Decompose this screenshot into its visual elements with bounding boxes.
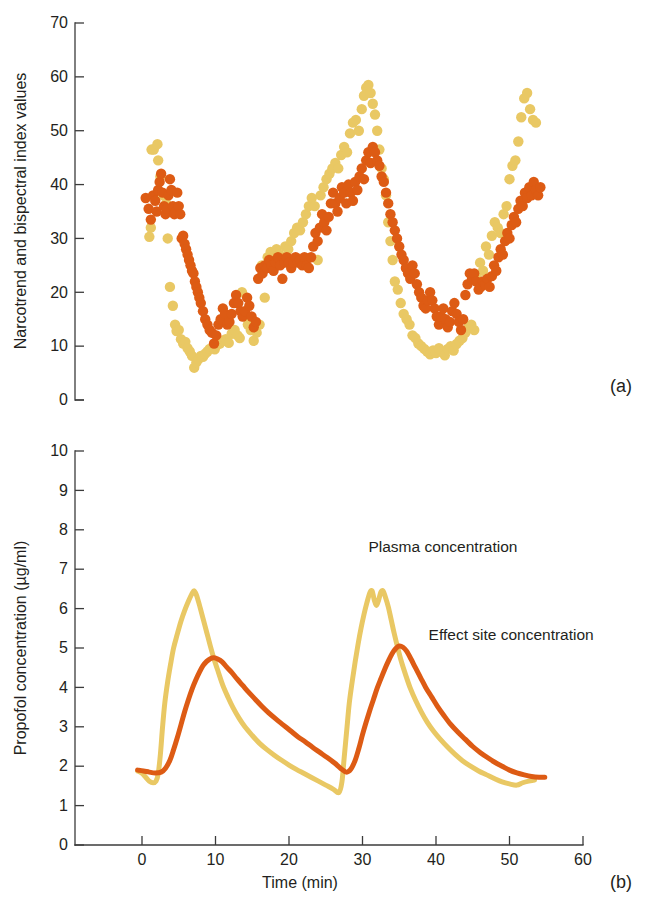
- series-annotation-label: Plasma concentration: [368, 538, 517, 555]
- data-point: [504, 233, 514, 243]
- data-point: [381, 187, 391, 197]
- data-point: [510, 155, 520, 165]
- data-point: [396, 298, 406, 308]
- data-point: [504, 174, 514, 184]
- data-point: [211, 330, 221, 340]
- data-point: [531, 117, 541, 127]
- data-point: [535, 182, 545, 192]
- y-tick-label: 1: [59, 797, 68, 814]
- data-point: [484, 249, 494, 259]
- data-point: [244, 301, 254, 311]
- data-point: [156, 169, 166, 179]
- data-point: [525, 104, 535, 114]
- y-tick-label: 4: [59, 679, 68, 696]
- data-point: [368, 99, 378, 109]
- data-point: [460, 290, 470, 300]
- data-point: [165, 174, 175, 184]
- panel-a-tag-label: (a): [610, 376, 632, 396]
- y-tick-label: 60: [50, 68, 68, 85]
- data-point: [498, 249, 508, 259]
- data-point: [522, 88, 532, 98]
- data-point: [165, 282, 175, 292]
- data-point: [387, 255, 397, 265]
- x-tick-label: 60: [574, 851, 592, 868]
- data-point: [251, 317, 261, 327]
- data-point: [511, 217, 521, 227]
- data-point: [449, 298, 459, 308]
- data-point: [393, 284, 403, 294]
- data-point: [175, 209, 185, 219]
- y-tick-label: 10: [50, 337, 68, 354]
- data-point: [469, 325, 479, 335]
- y-tick-label: 8: [59, 521, 68, 538]
- x-tick-label: 30: [354, 851, 372, 868]
- x-tick-label: 0: [138, 851, 147, 868]
- y-tick-label: 7: [59, 560, 68, 577]
- y-tick-label: 0: [59, 836, 68, 853]
- scientific-figure: 010203040506070 Narcotrend and bispectra…: [0, 0, 661, 905]
- data-point: [374, 161, 384, 171]
- x-tick-label: 20: [280, 851, 298, 868]
- y-tick-label: 10: [50, 442, 68, 459]
- data-point: [372, 126, 382, 136]
- data-point: [354, 126, 364, 136]
- data-point: [359, 174, 369, 184]
- y-tick-label: 5: [59, 639, 68, 656]
- data-point: [351, 115, 361, 125]
- data-point: [306, 252, 316, 262]
- panel-a-y-axis-label: Narcotrend and bispectral index values: [12, 73, 29, 350]
- data-point: [310, 201, 320, 211]
- data-point: [383, 198, 393, 208]
- y-tick-label: 0: [59, 391, 68, 408]
- figure-container: 010203040506070 Narcotrend and bispectra…: [0, 0, 661, 905]
- data-point: [484, 282, 494, 292]
- data-point: [348, 196, 358, 206]
- data-point: [163, 233, 173, 243]
- figure-background: [0, 0, 661, 905]
- data-point: [150, 196, 160, 206]
- y-tick-label: 70: [50, 14, 68, 31]
- data-point: [516, 112, 526, 122]
- data-point: [235, 333, 245, 343]
- x-tick-label: 10: [207, 851, 225, 868]
- data-point: [226, 309, 236, 319]
- data-point: [379, 177, 389, 187]
- data-point: [260, 292, 270, 302]
- y-tick-label: 20: [50, 284, 68, 301]
- data-point: [438, 303, 448, 313]
- data-point: [352, 185, 362, 195]
- y-tick-label: 30: [50, 230, 68, 247]
- data-point: [321, 225, 331, 235]
- data-point: [491, 266, 501, 276]
- panel-b-y-axis-label: Propofol concentration (µg/ml): [12, 541, 29, 756]
- data-point: [304, 263, 314, 273]
- data-point: [342, 147, 352, 157]
- series-annotation-label: Effect site concentration: [429, 626, 594, 643]
- data-point: [323, 212, 333, 222]
- data-point: [456, 325, 466, 335]
- data-point: [458, 314, 468, 324]
- data-point: [144, 232, 154, 242]
- y-tick-label: 2: [59, 757, 68, 774]
- data-point: [357, 104, 367, 114]
- panel-b-x-axis-label: Time (min): [262, 874, 338, 891]
- data-point: [370, 109, 380, 119]
- data-point: [501, 201, 511, 211]
- y-tick-label: 9: [59, 482, 68, 499]
- data-point: [172, 187, 182, 197]
- data-point: [409, 268, 419, 278]
- y-tick-label: 3: [59, 718, 68, 735]
- y-tick-label: 6: [59, 600, 68, 617]
- data-point: [174, 325, 184, 335]
- x-tick-label: 50: [501, 851, 519, 868]
- panel-b-tag-label: (b): [610, 872, 632, 892]
- data-point: [513, 136, 523, 146]
- data-point: [277, 274, 287, 284]
- data-point: [312, 236, 322, 246]
- data-point: [333, 163, 343, 173]
- data-point: [168, 301, 178, 311]
- data-point: [365, 88, 375, 98]
- x-tick-label: 40: [427, 851, 445, 868]
- y-tick-label: 40: [50, 176, 68, 193]
- data-point: [224, 338, 234, 348]
